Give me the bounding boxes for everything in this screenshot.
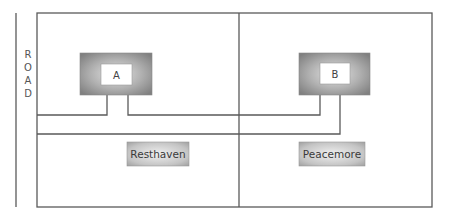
site-diagram: R O A D A B Resthaven Peacemore <box>0 0 451 216</box>
road-letter: R <box>25 49 32 60</box>
building-a[interactable]: A <box>80 53 152 95</box>
path-a-left <box>37 95 107 115</box>
road-letter: O <box>24 62 32 73</box>
lot-peacemore[interactable]: Peacemore <box>299 142 365 166</box>
building-b-label: B <box>332 69 339 80</box>
lot-resthaven[interactable]: Resthaven <box>127 142 189 166</box>
road-label: R O A D <box>24 49 32 99</box>
path-a-to-b <box>128 95 320 115</box>
building-a-label: A <box>113 70 120 81</box>
lot-peacemore-label: Peacemore <box>303 148 361 160</box>
road-letter: D <box>24 88 32 99</box>
lot-resthaven-label: Resthaven <box>130 148 185 160</box>
building-b[interactable]: B <box>299 53 370 95</box>
road-letter: A <box>25 75 32 86</box>
property-boundary <box>37 13 432 207</box>
